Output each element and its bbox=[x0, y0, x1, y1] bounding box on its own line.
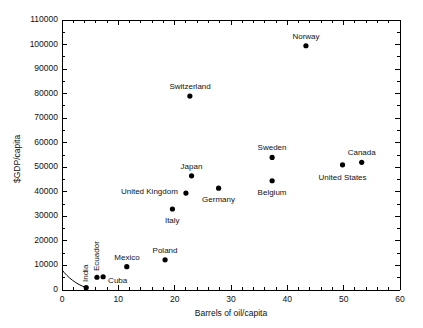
point-label: Ecuador bbox=[92, 241, 101, 271]
y-tick-label: 90000 bbox=[34, 63, 58, 73]
point-label: Japan bbox=[181, 162, 203, 171]
plot-canvas bbox=[0, 0, 423, 328]
x-tick-label: 40 bbox=[267, 294, 307, 304]
point-label: United States bbox=[319, 173, 367, 182]
x-tick-label: 20 bbox=[155, 294, 195, 304]
point-label: Mexico bbox=[114, 253, 139, 262]
y-tick-label: 10000 bbox=[34, 259, 58, 269]
data-point[interactable] bbox=[189, 173, 194, 178]
point-label: Norway bbox=[292, 32, 319, 41]
x-tick-label: 0 bbox=[42, 294, 82, 304]
data-point[interactable] bbox=[216, 186, 221, 191]
point-label: Belgium bbox=[258, 188, 287, 197]
y-tick-label: 80000 bbox=[34, 88, 58, 98]
y-tick-label: 110000 bbox=[30, 14, 58, 24]
y-tick-label: 60000 bbox=[34, 137, 58, 147]
x-tick-label: 60 bbox=[380, 294, 420, 304]
data-point[interactable] bbox=[94, 275, 99, 280]
data-point[interactable] bbox=[270, 155, 275, 160]
point-label: Switzerland bbox=[169, 82, 210, 91]
y-tick-label: 0 bbox=[53, 284, 58, 294]
point-label: Italy bbox=[165, 216, 180, 225]
data-point[interactable] bbox=[359, 160, 364, 165]
y-tick-label: 70000 bbox=[34, 112, 58, 122]
point-label: Canada bbox=[348, 148, 376, 157]
y-tick-label: 30000 bbox=[34, 210, 58, 220]
x-tick-label: 50 bbox=[324, 294, 364, 304]
data-point[interactable] bbox=[170, 206, 175, 211]
data-point[interactable] bbox=[183, 190, 188, 195]
y-tick-label: 20000 bbox=[34, 235, 58, 245]
point-label: Poland bbox=[153, 246, 178, 255]
data-point[interactable] bbox=[101, 274, 106, 279]
point-label: United Kingdom bbox=[121, 187, 178, 196]
data-point[interactable] bbox=[162, 257, 167, 262]
data-point[interactable] bbox=[124, 264, 129, 269]
x-tick-label: 10 bbox=[98, 294, 138, 304]
x-tick-label: 30 bbox=[211, 294, 251, 304]
scatter-plot-figure: 0100002000030000400005000060000700008000… bbox=[0, 0, 423, 328]
y-axis-title: $GDP/capita bbox=[12, 135, 22, 183]
data-point[interactable] bbox=[303, 43, 308, 48]
point-label: Germany bbox=[202, 195, 235, 204]
data-point[interactable] bbox=[84, 285, 89, 290]
y-tick-label: 100000 bbox=[30, 39, 58, 49]
data-point[interactable] bbox=[340, 162, 345, 167]
data-point[interactable] bbox=[187, 93, 192, 98]
point-label: Cuba bbox=[108, 276, 127, 285]
point-label: India bbox=[81, 264, 90, 281]
point-label: Sweden bbox=[258, 143, 287, 152]
data-point[interactable] bbox=[270, 178, 275, 183]
x-axis-title: Barrels of oil/capita bbox=[62, 308, 400, 318]
y-tick-label: 40000 bbox=[34, 186, 58, 196]
y-tick-label: 50000 bbox=[34, 161, 58, 171]
